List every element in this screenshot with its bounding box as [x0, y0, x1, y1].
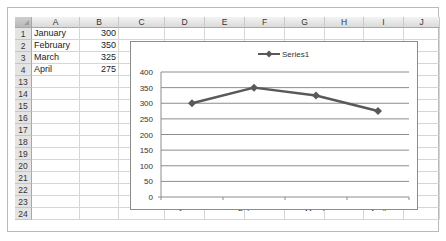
cell-f1[interactable]: [245, 28, 285, 40]
cell-i1[interactable]: [364, 28, 404, 40]
y-tick-label: 0: [149, 193, 154, 202]
cell-a20[interactable]: [32, 160, 80, 172]
x-category-label: January: [178, 208, 206, 211]
cell-h1[interactable]: [325, 28, 364, 40]
row-header-18[interactable]: 18: [15, 136, 32, 148]
select-all-corner[interactable]: [15, 17, 32, 28]
column-header-j[interactable]: J: [404, 17, 440, 28]
x-category-label: March: [305, 208, 327, 211]
cell-a1[interactable]: January: [32, 28, 80, 40]
cell-b24[interactable]: [80, 208, 119, 220]
cell-a15[interactable]: [32, 100, 80, 112]
line-chart[interactable]: Series1 050100150200250300350400JanuaryF…: [130, 41, 418, 210]
cell-a21[interactable]: [32, 172, 80, 184]
column-header-d[interactable]: D: [165, 17, 205, 28]
row-header-15[interactable]: 15: [15, 100, 32, 112]
cell-b15[interactable]: [80, 100, 119, 112]
y-tick-label: 350: [140, 84, 154, 93]
row-header-21[interactable]: 21: [15, 172, 32, 184]
row-header-22[interactable]: 22: [15, 184, 32, 196]
cell-a22[interactable]: [32, 184, 80, 196]
cell-b2[interactable]: 350: [80, 40, 119, 52]
cell-a2[interactable]: February: [32, 40, 80, 52]
cell-c1[interactable]: [119, 28, 165, 40]
cell-a14[interactable]: [32, 88, 80, 100]
y-tick-label: 300: [140, 99, 154, 108]
column-header-b[interactable]: B: [80, 17, 119, 28]
cell-a18[interactable]: [32, 136, 80, 148]
cell-b1[interactable]: 300: [80, 28, 119, 40]
cell-a19[interactable]: [32, 148, 80, 160]
cell-b18[interactable]: [80, 136, 119, 148]
data-point-diamond-icon[interactable]: [312, 91, 320, 99]
series-line[interactable]: [192, 88, 378, 111]
row-header-13[interactable]: 13: [15, 76, 32, 88]
y-tick-label: 150: [140, 146, 154, 155]
cell-b21[interactable]: [80, 172, 119, 184]
x-category-label: February: [238, 208, 270, 211]
cell-a4[interactable]: April: [32, 64, 80, 76]
row-header-24[interactable]: 24: [15, 208, 32, 220]
data-point-diamond-icon[interactable]: [374, 107, 382, 115]
cell-b3[interactable]: 325: [80, 52, 119, 64]
x-category-label: April: [370, 208, 386, 211]
row-header-16[interactable]: 16: [15, 112, 32, 124]
cell-a3[interactable]: March: [32, 52, 80, 64]
cell-a23[interactable]: [32, 196, 80, 208]
column-header-a[interactable]: A: [32, 17, 80, 28]
row-header-3[interactable]: 3: [15, 52, 32, 64]
row-header-19[interactable]: 19: [15, 148, 32, 160]
column-header-h[interactable]: H: [325, 17, 364, 28]
cell-b20[interactable]: [80, 160, 119, 172]
data-point-diamond-icon[interactable]: [250, 84, 258, 92]
y-tick-label: 50: [144, 177, 153, 186]
cell-a16[interactable]: [32, 112, 80, 124]
cell-b14[interactable]: [80, 88, 119, 100]
cell-a24[interactable]: [32, 208, 80, 220]
plot-area: 050100150200250300350400JanuaryFebruaryM…: [131, 42, 419, 211]
column-header-i[interactable]: I: [364, 17, 404, 28]
row-header-17[interactable]: 17: [15, 124, 32, 136]
cell-g1[interactable]: [285, 28, 325, 40]
cell-j1[interactable]: [404, 28, 440, 40]
column-header-e[interactable]: E: [205, 17, 245, 28]
y-tick-label: 250: [140, 115, 154, 124]
column-header-g[interactable]: G: [285, 17, 325, 28]
cell-a13[interactable]: [32, 76, 80, 88]
row-header-2[interactable]: 2: [15, 40, 32, 52]
cell-a17[interactable]: [32, 124, 80, 136]
cell-b13[interactable]: [80, 76, 119, 88]
cell-d1[interactable]: [165, 28, 205, 40]
data-point-diamond-icon[interactable]: [188, 99, 196, 107]
column-header-c[interactable]: C: [119, 17, 165, 28]
cell-b22[interactable]: [80, 184, 119, 196]
y-tick-label: 400: [140, 68, 154, 77]
column-header-f[interactable]: F: [245, 17, 285, 28]
row-header-20[interactable]: 20: [15, 160, 32, 172]
cell-b17[interactable]: [80, 124, 119, 136]
y-tick-label: 100: [140, 162, 154, 171]
cell-b23[interactable]: [80, 196, 119, 208]
row-header-4[interactable]: 4: [15, 64, 32, 76]
cell-b4[interactable]: 275: [80, 64, 119, 76]
row-header-23[interactable]: 23: [15, 196, 32, 208]
row-header-14[interactable]: 14: [15, 88, 32, 100]
y-tick-label: 200: [140, 131, 154, 140]
row-header-1[interactable]: 1: [15, 28, 32, 40]
cell-b19[interactable]: [80, 148, 119, 160]
cell-e1[interactable]: [205, 28, 245, 40]
cell-b16[interactable]: [80, 112, 119, 124]
